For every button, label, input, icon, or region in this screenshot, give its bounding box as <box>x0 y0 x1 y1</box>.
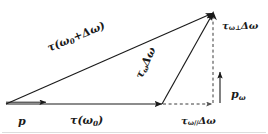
label-tau-omega-perp-domega: τω⊥Δω <box>222 21 258 32</box>
label-tau-omega-parallel-domega: τω//Δω <box>181 116 216 127</box>
label-p: p <box>18 116 26 127</box>
vector-decomposition-figure: p τ(ω0) τ(ω0+Δω) τωΔω τω⊥Δω τω//Δω pω <box>0 0 268 134</box>
label-tau-omega0: τ(ω0) <box>70 115 103 127</box>
vector-tau-omega0-plus-domega-arrow <box>6 13 213 104</box>
label-p-omega: pω <box>231 89 245 101</box>
vector-tau-omega-domega-arrow <box>162 13 213 104</box>
